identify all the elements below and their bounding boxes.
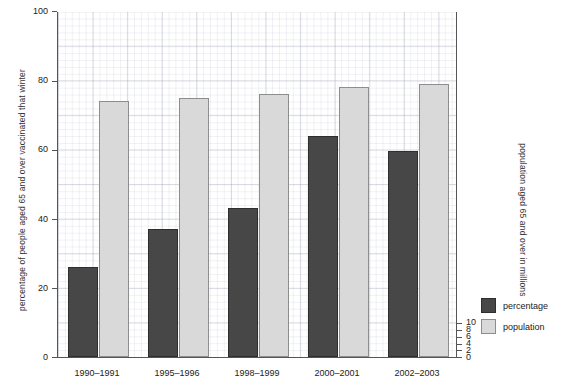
x-axis-category-label-4: 2002–2003 — [377, 368, 457, 378]
legend-label-population: population — [503, 322, 545, 332]
x-axis-category-label-0: 1990–1991 — [57, 368, 137, 378]
y-axis-ticklabel-left-60: 60 — [8, 145, 48, 154]
bar-population-1 — [179, 98, 209, 358]
y-axis-ticklabel-left-0: 0 — [8, 353, 48, 362]
bar-percentage-4 — [388, 151, 418, 357]
bar-percentage-0 — [68, 267, 98, 357]
bar-population-4 — [419, 84, 449, 357]
x-axis-category-label-1: 1995–1996 — [137, 368, 217, 378]
y-axis-tick-right-10 — [457, 323, 462, 324]
bar-population-2 — [259, 94, 289, 357]
plot-area — [57, 12, 457, 358]
y-axis-tick-right-0 — [457, 357, 462, 358]
bar-population-3 — [339, 87, 369, 357]
y-axis-tick-right-8 — [457, 330, 462, 331]
legend-item-population[interactable]: population — [481, 319, 548, 334]
x-axis-category-label-2: 1998–1999 — [217, 368, 297, 378]
bar-population-0 — [99, 101, 129, 357]
chart-legend: percentagepopulation — [481, 298, 548, 334]
legend-item-percentage[interactable]: percentage — [481, 298, 548, 313]
legend-swatch-percentage — [481, 298, 496, 313]
legend-swatch-population — [481, 319, 496, 334]
y-axis-ticklabel-left-80: 80 — [8, 76, 48, 85]
bar-percentage-1 — [148, 229, 178, 357]
bar-percentage-3 — [308, 136, 338, 357]
x-axis-category-label-3: 2000–2001 — [297, 368, 377, 378]
legend-label-percentage: percentage — [503, 301, 548, 311]
y-axis-ticklabel-left-100: 100 — [8, 7, 48, 16]
y-axis-ticklabel-left-20: 20 — [8, 284, 48, 293]
y-axis-tick-right-2 — [457, 350, 462, 351]
y-axis-tick-right-6 — [457, 337, 462, 338]
bar-percentage-2 — [228, 208, 258, 357]
y-axis-ticklabel-left-40: 40 — [8, 215, 48, 224]
y-axis-tick-right-4 — [457, 344, 462, 345]
chart-container: percentage of people aged 65 and over va… — [0, 0, 567, 390]
